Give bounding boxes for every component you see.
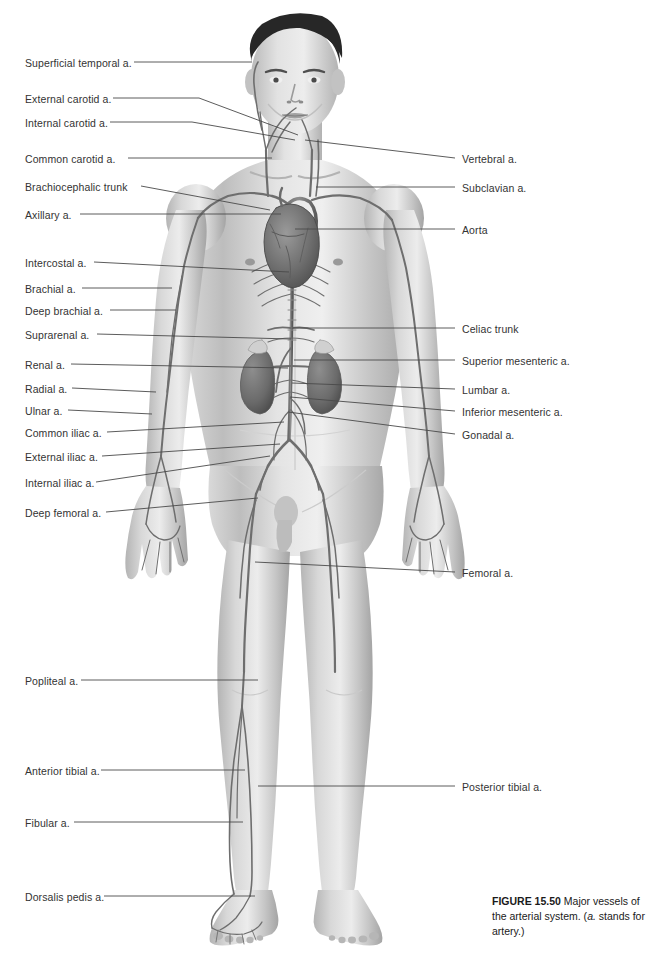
label-posterior-tibial: Posterior tibial a. (462, 782, 542, 793)
figure-page: Superficial temporal a.External carotid … (0, 0, 658, 964)
label-deep-femoral: Deep femoral a. (25, 508, 101, 519)
label-popliteal: Popliteal a. (25, 676, 78, 687)
label-external-iliac: External iliac a. (25, 452, 98, 463)
label-suprarenal: Suprarenal a. (25, 330, 89, 341)
label-radial: Radial a. (25, 384, 67, 395)
label-internal-carotid: Internal carotid a. (25, 118, 108, 129)
label-external-carotid: External carotid a. (25, 94, 112, 105)
label-deep-brachial: Deep brachial a. (25, 306, 103, 317)
label-renal: Renal a. (25, 360, 65, 371)
figure-caption: FIGURE 15.50 Major vessels of the arteri… (492, 894, 652, 939)
label-ulnar: Ulnar a. (25, 406, 63, 417)
label-inferior-mesenteric: Inferior mesenteric a. (462, 407, 563, 418)
label-common-iliac: Common iliac a. (25, 428, 102, 439)
label-dorsalis-pedis: Dorsalis pedis a. (25, 892, 104, 903)
label-intercostal: Intercostal a. (25, 258, 87, 269)
label-brachiocephalic-trunk: Brachiocephalic trunk (25, 182, 128, 193)
label-brachial: Brachial a. (25, 284, 76, 295)
label-superior-mesenteric: Superior mesenteric a. (462, 356, 570, 367)
label-anterior-tibial: Anterior tibial a. (25, 766, 100, 777)
label-internal-iliac: Internal iliac a. (25, 478, 94, 489)
label-fibular: Fibular a. (25, 818, 70, 829)
leader-line-radial (72, 388, 156, 392)
label-subclavian: Subclavian a. (462, 183, 526, 194)
label-celiac-trunk: Celiac trunk (462, 324, 519, 335)
leader-line-ulnar (68, 410, 152, 414)
caption-figure-number: FIGURE 15.50 (492, 895, 561, 907)
label-femoral: Femoral a. (462, 568, 513, 579)
label-aorta: Aorta (462, 225, 488, 236)
leader-line-internal-carotid (110, 122, 295, 140)
label-axillary: Axillary a. (25, 210, 72, 221)
label-common-carotid: Common carotid a. (25, 154, 115, 165)
label-vertebral: Vertebral a. (462, 154, 517, 165)
label-superficial-temporal: Superficial temporal a. (25, 58, 132, 69)
caption-italic-token: a. (587, 910, 596, 922)
arterial-system-illustration (0, 0, 658, 964)
label-gonadal: Gonadal a. (462, 430, 514, 441)
label-lumbar: Lumbar a. (462, 385, 510, 396)
leader-line-vertebral (305, 140, 455, 158)
